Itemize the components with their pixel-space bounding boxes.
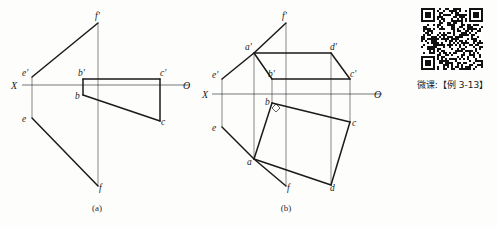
point-label-f: f: [287, 183, 291, 193]
qr-code-caption: 微课:【例 3-13】: [410, 78, 495, 91]
axis-label-x: X: [201, 89, 209, 100]
seg-a-d: [254, 159, 331, 185]
qr-code-canvas[interactable]: [421, 8, 483, 70]
figure-a-caption: (a): [92, 203, 102, 213]
point-label-d: d: [330, 183, 335, 193]
seg-eprime-aprime: [222, 53, 254, 79]
seg-e-a: [222, 127, 254, 159]
figure-a-group: XOf'e'b'c'bcef(a): [10, 11, 190, 213]
point-label-b-prime: b': [78, 68, 86, 78]
seg-bc: [83, 95, 160, 121]
point-label-e: e: [22, 114, 26, 124]
seg-a-f: [254, 159, 286, 186]
point-label-b: b: [265, 97, 270, 107]
point-label-e: e: [212, 123, 216, 133]
point-label-c: c: [161, 117, 166, 127]
point-label-a: a: [247, 157, 252, 167]
point-label-e-prime: e': [22, 68, 29, 78]
figure-root: XOf'e'b'c'bcef(a) XOf'a'd'e'b'c'bceafd(b…: [0, 0, 497, 227]
axis-label-x: X: [10, 80, 18, 91]
seg-aprime-fprime: [254, 23, 286, 53]
point-label-d-prime: d': [330, 42, 338, 52]
axis-label-o: O: [183, 80, 190, 91]
point-label-e-prime: e': [212, 70, 219, 80]
qr-code[interactable]: [421, 8, 483, 70]
point-label-c-prime: c': [160, 68, 167, 78]
point-label-c: c: [352, 118, 357, 128]
seg-ef-prime: [32, 23, 98, 77]
seg-ef: [32, 118, 98, 186]
figure-b-group: XOf'a'd'e'b'c'bceafd(b): [201, 11, 382, 213]
figure-b-caption: (b): [281, 203, 292, 213]
point-label-f-prime: f': [95, 11, 101, 21]
seg-b-a: [254, 103, 272, 159]
seg-b-c: [272, 103, 350, 122]
point-label-b: b: [75, 91, 80, 101]
point-label-f: f: [99, 183, 103, 193]
point-label-a-prime: a': [245, 42, 253, 52]
seg-c-d: [331, 122, 350, 185]
point-label-f-prime: f': [282, 11, 288, 21]
point-label-c-prime: c': [350, 69, 357, 79]
axis-label-o: O: [374, 89, 381, 100]
seg-dprime-cprime: [331, 53, 350, 79]
point-label-b-prime: b': [268, 69, 276, 79]
